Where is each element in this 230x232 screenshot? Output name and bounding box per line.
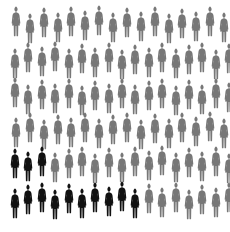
person-icon bbox=[78, 10, 90, 41]
person-icon bbox=[155, 42, 167, 73]
person-icon bbox=[115, 78, 127, 109]
person-icon bbox=[155, 187, 167, 218]
person-icon bbox=[203, 111, 215, 142]
person-icon bbox=[37, 7, 49, 38]
person-icon bbox=[48, 41, 60, 72]
person-icon bbox=[48, 83, 60, 114]
person-icon-highlighted bbox=[35, 182, 47, 213]
person-icon bbox=[148, 113, 160, 144]
person-icon bbox=[21, 42, 33, 73]
person-icon bbox=[120, 112, 132, 143]
person-icon bbox=[169, 182, 181, 213]
person-icon bbox=[35, 79, 47, 110]
person-icon bbox=[217, 118, 229, 149]
person-icon bbox=[64, 6, 76, 37]
person-icon bbox=[182, 44, 194, 75]
person-icon bbox=[75, 146, 87, 177]
person-icon bbox=[203, 6, 215, 37]
person-icon bbox=[92, 118, 104, 149]
person-icon bbox=[182, 189, 194, 220]
person-icon-highlighted bbox=[35, 146, 47, 177]
person-icon bbox=[182, 79, 194, 110]
person-icon bbox=[75, 43, 87, 74]
person-icon bbox=[209, 187, 221, 218]
person-icon-highlighted bbox=[21, 151, 33, 182]
person-icon bbox=[21, 84, 33, 115]
person-icon bbox=[209, 146, 221, 177]
person-icon bbox=[106, 12, 118, 43]
person-icon bbox=[128, 84, 140, 115]
person-icon bbox=[88, 47, 100, 78]
person-icon bbox=[175, 8, 187, 39]
person-icon bbox=[102, 147, 114, 178]
person-icon bbox=[162, 13, 174, 44]
person-icon-highlighted bbox=[8, 188, 20, 219]
pictograph-chart: 13 of 100 figures highlighted bbox=[0, 0, 230, 232]
person-icon bbox=[102, 83, 114, 114]
person-icon bbox=[51, 114, 63, 145]
person-icon bbox=[169, 48, 181, 79]
person-icon bbox=[195, 151, 207, 182]
person-icon bbox=[48, 152, 60, 183]
person-icon bbox=[189, 116, 201, 147]
person-icon-highlighted bbox=[128, 188, 140, 219]
person-icon-highlighted bbox=[62, 183, 74, 214]
person-icon-highlighted bbox=[48, 189, 60, 220]
person-icon bbox=[142, 183, 154, 214]
person-icon bbox=[23, 13, 35, 44]
person-icon bbox=[106, 114, 118, 145]
person-icon-highlighted bbox=[8, 148, 20, 179]
person-icon bbox=[9, 117, 21, 148]
person-icon bbox=[222, 43, 230, 74]
person-icon bbox=[88, 153, 100, 184]
person-icon bbox=[62, 48, 74, 79]
person-icon bbox=[88, 80, 100, 111]
person-icon bbox=[35, 46, 47, 77]
person-icon bbox=[78, 112, 90, 143]
person-icon bbox=[222, 182, 230, 213]
person-icon bbox=[51, 12, 63, 43]
person-icon bbox=[120, 7, 132, 38]
person-icon bbox=[128, 44, 140, 75]
person-icon bbox=[209, 78, 221, 109]
person-icon-highlighted bbox=[115, 181, 127, 212]
person-icon bbox=[8, 77, 20, 108]
person-icon bbox=[217, 12, 229, 43]
person-icon bbox=[62, 148, 74, 179]
person-icon-highlighted bbox=[75, 188, 87, 219]
person-icon bbox=[8, 48, 20, 79]
person-icon bbox=[128, 146, 140, 177]
person-icon bbox=[92, 5, 104, 36]
person-icon bbox=[9, 6, 21, 37]
person-icon bbox=[175, 112, 187, 143]
person-icon bbox=[115, 152, 127, 183]
person-icon bbox=[115, 49, 127, 80]
person-icon bbox=[142, 80, 154, 111]
person-icon-highlighted bbox=[88, 182, 100, 213]
person-icon bbox=[222, 153, 230, 184]
person-icon bbox=[23, 112, 35, 143]
person-icon bbox=[62, 78, 74, 109]
person-icon bbox=[209, 49, 221, 80]
person-icon bbox=[155, 78, 167, 109]
person-icon bbox=[169, 152, 181, 183]
person-icon bbox=[134, 11, 146, 42]
person-icon bbox=[148, 6, 160, 37]
person-icon-highlighted bbox=[102, 186, 114, 217]
person-icon bbox=[142, 47, 154, 78]
person-icon bbox=[142, 150, 154, 181]
person-icon bbox=[155, 145, 167, 176]
person-icon bbox=[189, 11, 201, 42]
person-icon bbox=[64, 117, 76, 148]
person-icon-highlighted bbox=[21, 184, 33, 215]
chart-summary: 13 of 100 figures highlighted bbox=[0, 0, 1, 1]
person-icon bbox=[195, 184, 207, 215]
person-icon bbox=[182, 147, 194, 178]
person-icon bbox=[102, 42, 114, 73]
person-icon bbox=[195, 42, 207, 73]
person-icon bbox=[222, 82, 230, 113]
